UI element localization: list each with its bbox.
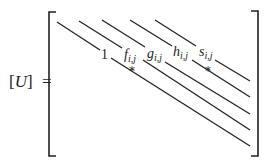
diagonal-label-f: fi,j xyxy=(124,48,136,64)
asterisk-marker-f: * xyxy=(129,65,135,77)
diagonal-label-g: gi,j xyxy=(147,47,162,63)
diagonal-f-lower xyxy=(143,60,250,130)
diagonal-f-upper xyxy=(79,21,122,48)
diagonal-h-lower xyxy=(192,60,250,97)
diagonal-label-s: si,j xyxy=(199,45,213,61)
diagonal-label-1: 1 xyxy=(101,48,108,62)
diagonal-main-upper xyxy=(57,22,100,50)
matrix-lines xyxy=(0,0,269,165)
upper-triangular-matrix-figure: [U] = 1 fi,j xyxy=(0,0,269,165)
diagonal-s-upper xyxy=(155,20,196,46)
right-matrix-bracket xyxy=(251,11,258,156)
diagonal-g-upper xyxy=(102,20,145,47)
diagonal-label-h: hi,j xyxy=(173,45,188,61)
asterisk-marker-s: * xyxy=(205,65,211,77)
left-matrix-bracket xyxy=(49,12,56,156)
